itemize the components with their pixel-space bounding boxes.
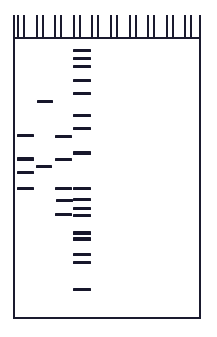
band-lane-4-ladder-8 — [73, 151, 91, 155]
band-lane-4-ladder-10 — [73, 198, 91, 201]
band-lane-2-2 — [36, 165, 52, 168]
band-lane-1-4 — [17, 187, 34, 190]
band-lane-4-ladder-9 — [73, 187, 91, 190]
band-lane-4-ladder-3 — [73, 65, 91, 68]
band-lane-4-ladder-12 — [73, 214, 91, 217]
band-lane-4-ladder-5 — [73, 92, 91, 95]
band-lane-3-1 — [55, 135, 72, 138]
gel-edge-left — [13, 15, 15, 40]
gel-well-4 — [73, 15, 81, 39]
band-lane-4-ladder-11 — [73, 207, 91, 210]
band-lane-2-1 — [37, 100, 53, 103]
gel-well-3 — [54, 15, 62, 39]
band-lane-4-ladder-16 — [73, 261, 91, 264]
gel-well-1 — [17, 15, 25, 39]
band-lane-4-ladder-2 — [73, 57, 91, 60]
gel-electrophoresis-figure — [0, 0, 217, 337]
band-lane-3-3 — [55, 187, 72, 190]
band-lane-4-ladder-7 — [73, 127, 91, 130]
gel-well-2 — [36, 15, 44, 39]
band-lane-3-4 — [56, 199, 73, 202]
band-lane-4-ladder-15 — [73, 253, 91, 256]
gel-well-6 — [110, 15, 118, 39]
band-lane-3-5 — [55, 213, 72, 216]
band-lane-4-ladder-13 — [73, 231, 91, 235]
gel-well-9 — [166, 15, 174, 39]
band-lane-4-ladder-17 — [73, 288, 91, 291]
gel-edge-right — [199, 15, 201, 40]
gel-slab-outline — [13, 39, 201, 319]
gel-well-10 — [184, 15, 192, 39]
band-lane-3-2 — [55, 158, 72, 161]
band-lane-4-ladder-4 — [73, 79, 91, 82]
band-lane-1-3 — [17, 171, 34, 174]
band-lane-1-2 — [17, 157, 34, 161]
band-lane-1-1 — [17, 134, 34, 137]
gel-well-5 — [91, 15, 99, 39]
gel-well-8 — [147, 15, 155, 39]
band-lane-4-ladder-14 — [73, 237, 91, 241]
gel-well-7 — [129, 15, 137, 39]
band-lane-4-ladder-1 — [73, 49, 91, 52]
band-lane-4-ladder-6 — [73, 114, 91, 117]
